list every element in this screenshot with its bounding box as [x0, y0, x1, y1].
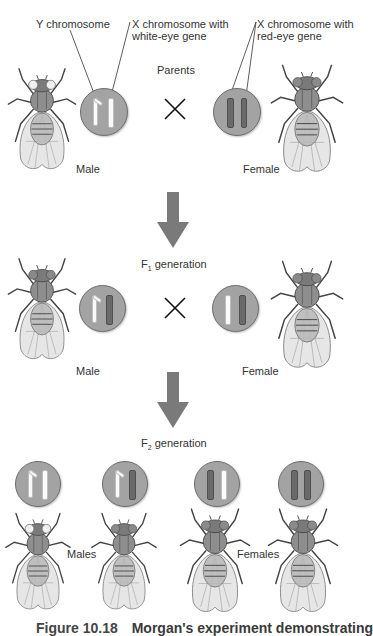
figure-number: Figure 10.18 — [36, 620, 118, 636]
parent-female-label: Female — [243, 163, 280, 175]
f1-title: F1 generation — [141, 258, 207, 275]
f2-male1-chromosome-circle — [15, 461, 61, 507]
x-chromosome-white-eye — [42, 470, 48, 500]
f1-title-prefix: F — [141, 258, 148, 270]
female-parent-fly — [262, 56, 352, 178]
f1-male-fly — [2, 250, 82, 365]
x-chromosome-red-eye — [129, 470, 136, 500]
f2-male2-chromosome-circle — [102, 461, 148, 507]
f2-title-suffix: generation — [152, 437, 207, 449]
x-chromosome-red-eye — [241, 98, 247, 128]
f1-title-suffix: generation — [152, 258, 207, 270]
cross-icon — [163, 296, 187, 320]
f1-female-fly — [262, 252, 352, 374]
male-parent-fly — [2, 60, 82, 175]
f2-title: F2 generation — [141, 437, 207, 454]
f2-title-prefix: F — [141, 437, 148, 449]
x-chromosome-red-eye — [239, 295, 246, 325]
f1-male-label: Male — [76, 365, 100, 377]
figure-caption-text: Morgan's experiment demonstrating — [132, 620, 373, 636]
f2-male-red-eye-fly — [86, 505, 162, 615]
parent-male-label: Male — [76, 163, 100, 175]
f1-female-chromosome-circle — [212, 285, 259, 332]
x-chromosome-red-eye — [207, 470, 214, 500]
x-chromosome-white-eye — [225, 295, 231, 325]
x-chromosome-red-eye — [106, 295, 113, 325]
f1-female-label: Female — [242, 365, 279, 377]
x-chromosome-red-eye — [291, 470, 298, 500]
down-arrow-icon — [156, 192, 190, 250]
x-chromosome-red-eye — [304, 470, 311, 500]
parents-title: Parents — [157, 64, 195, 76]
x-chromosome-white-eye — [221, 470, 227, 500]
f1-male-chromosome-circle — [79, 285, 126, 332]
down-arrow-icon — [156, 372, 190, 430]
x-chromosome-red-eye — [227, 98, 234, 128]
f2-male-white-eye-fly — [0, 505, 76, 615]
parent-male-chromosome-circle — [80, 88, 128, 136]
f2-females-label: Females — [237, 548, 279, 560]
parent-female-chromosome-circle — [213, 88, 261, 136]
f2-males-label: Males — [67, 548, 96, 560]
x-chromosome-white-eye — [108, 98, 114, 128]
figure-caption: Figure 10.18Morgan's experiment demonstr… — [36, 620, 373, 636]
cross-icon — [163, 97, 187, 121]
